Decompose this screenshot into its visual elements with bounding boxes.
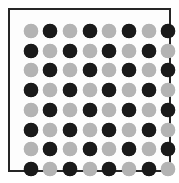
dot-light <box>161 123 175 137</box>
dot-light <box>102 63 116 77</box>
dot-light <box>142 103 156 117</box>
dot-dark <box>43 63 57 77</box>
outer-border <box>8 8 171 172</box>
dot-light <box>83 162 97 176</box>
dot-cell <box>100 140 120 160</box>
dot-matrix <box>21 21 178 179</box>
dot-cell <box>158 159 178 179</box>
dot-dark <box>142 162 156 176</box>
dot-cell <box>139 80 159 100</box>
dot-cell <box>158 61 178 81</box>
dot-light <box>63 142 77 156</box>
dot-light <box>142 24 156 38</box>
dot-cell <box>100 21 120 41</box>
dot-light <box>142 142 156 156</box>
dot-light <box>122 162 136 176</box>
dot-cell <box>60 61 80 81</box>
dot-light <box>122 123 136 137</box>
dot-cell <box>60 41 80 61</box>
dot-dark <box>142 44 156 58</box>
dot-cell <box>158 41 178 61</box>
dot-light <box>24 142 38 156</box>
dot-dark <box>83 63 97 77</box>
dot-light <box>161 44 175 58</box>
dot-dark <box>161 24 175 38</box>
dot-cell <box>80 61 100 81</box>
dot-dark <box>102 162 116 176</box>
dot-dark <box>24 123 38 137</box>
dot-cell <box>21 120 41 140</box>
dot-cell <box>100 61 120 81</box>
dot-dark <box>122 24 136 38</box>
dot-cell <box>21 80 41 100</box>
dot-dark <box>43 142 57 156</box>
dot-dark <box>83 24 97 38</box>
dot-dark <box>43 24 57 38</box>
dot-cell <box>41 140 61 160</box>
dot-dark <box>122 142 136 156</box>
dot-cell <box>80 41 100 61</box>
dot-dark <box>122 63 136 77</box>
dot-cell <box>139 61 159 81</box>
dot-cell <box>21 100 41 120</box>
dot-dark <box>122 103 136 117</box>
dot-light <box>161 162 175 176</box>
dot-dark <box>24 162 38 176</box>
dot-cell <box>158 80 178 100</box>
dot-light <box>43 83 57 97</box>
dot-dark <box>142 123 156 137</box>
dot-dark <box>63 83 77 97</box>
dot-cell <box>119 80 139 100</box>
dot-cell <box>60 80 80 100</box>
dot-cell <box>60 100 80 120</box>
dot-light <box>83 123 97 137</box>
dot-light <box>24 24 38 38</box>
dot-cell <box>100 159 120 179</box>
dot-cell <box>80 120 100 140</box>
dot-cell <box>119 100 139 120</box>
dot-cell <box>80 21 100 41</box>
dot-cell <box>41 159 61 179</box>
dot-light <box>43 44 57 58</box>
dot-cell <box>80 100 100 120</box>
dot-cell <box>41 41 61 61</box>
dot-light <box>83 83 97 97</box>
dot-light <box>161 83 175 97</box>
image-canvas <box>0 0 179 183</box>
dot-light <box>102 24 116 38</box>
dot-cell <box>158 120 178 140</box>
dot-dark <box>83 142 97 156</box>
dot-cell <box>60 21 80 41</box>
dot-cell <box>100 120 120 140</box>
dot-light <box>24 63 38 77</box>
dot-cell <box>139 120 159 140</box>
dot-light <box>83 44 97 58</box>
dot-cell <box>139 159 159 179</box>
dot-cell <box>80 159 100 179</box>
dot-cell <box>119 159 139 179</box>
dot-dark <box>63 162 77 176</box>
dot-cell <box>158 100 178 120</box>
dot-cell <box>119 120 139 140</box>
dot-dark <box>102 44 116 58</box>
dot-dark <box>102 83 116 97</box>
dot-cell <box>21 41 41 61</box>
dot-dark <box>24 83 38 97</box>
dot-cell <box>60 159 80 179</box>
dot-cell <box>100 41 120 61</box>
dot-cell <box>80 80 100 100</box>
dot-cell <box>139 21 159 41</box>
dot-cell <box>41 120 61 140</box>
dot-dark <box>102 123 116 137</box>
dot-dark <box>24 44 38 58</box>
dot-dark <box>63 123 77 137</box>
dot-cell <box>119 21 139 41</box>
dot-cell <box>100 80 120 100</box>
dot-cell <box>119 140 139 160</box>
dot-dark <box>63 44 77 58</box>
dot-cell <box>158 140 178 160</box>
dot-light <box>102 142 116 156</box>
dot-cell <box>41 21 61 41</box>
dot-cell <box>41 80 61 100</box>
dot-cell <box>60 140 80 160</box>
